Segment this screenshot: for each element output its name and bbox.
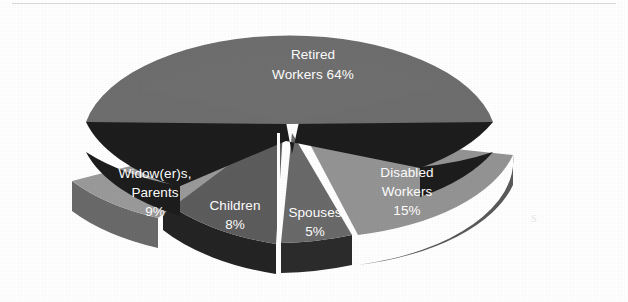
label-retired-line2: Workers 64% <box>272 67 354 82</box>
label-spouses-line1: Spouses <box>288 205 341 220</box>
label-widow-line3: 9% <box>145 204 165 219</box>
label-widow-line2: Parents <box>131 185 178 200</box>
label-widow-line1: Widow(er)s, <box>118 166 191 181</box>
label-retired-line1: Retired <box>291 47 335 62</box>
pie-chart-3d: Retired Workers 64% Disabled Workers 15%… <box>0 0 628 302</box>
label-children-line2: 8% <box>225 217 245 232</box>
label-children-line1: Children <box>209 198 260 213</box>
gap-spouses-children <box>277 133 280 277</box>
label-disabled-line1: Disabled <box>380 165 433 180</box>
label-spouses-line2: 5% <box>305 224 325 239</box>
chart-page: Retired Workers 64% Disabled Workers 15%… <box>0 0 628 302</box>
label-disabled-line2: Workers <box>382 184 433 199</box>
scan-artifact-speck: s <box>531 208 541 226</box>
label-disabled-line3: 15% <box>393 203 420 218</box>
